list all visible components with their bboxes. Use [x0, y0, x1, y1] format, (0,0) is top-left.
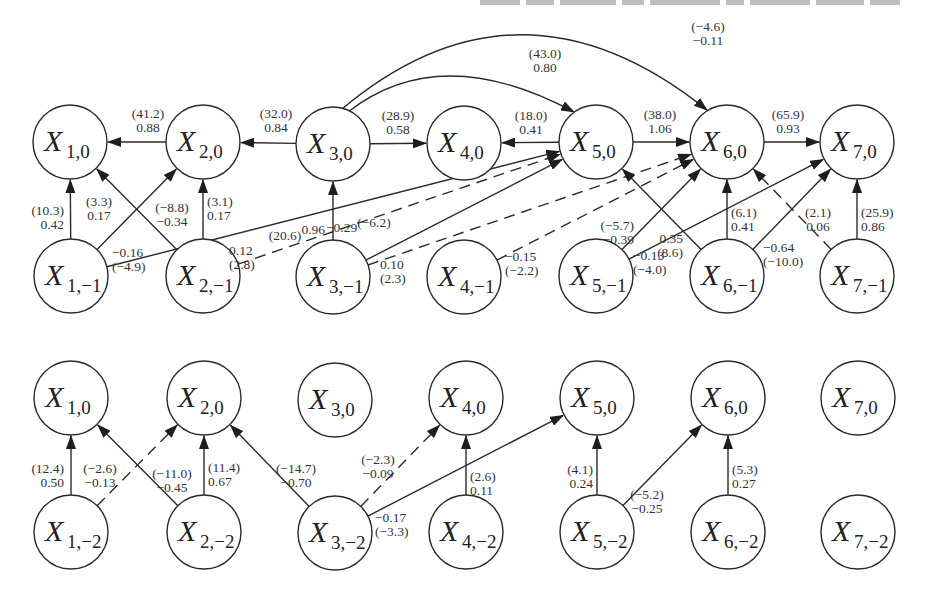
- node-label-main: X: [830, 258, 851, 291]
- node-label-main: X: [439, 380, 460, 413]
- edge-label: (43.0)0.80: [529, 46, 562, 75]
- edge-label: −0.17(−3.3): [375, 510, 408, 539]
- node-label-subscript: 2,−1: [199, 275, 233, 296]
- edge-label: −0.16(−4.9): [112, 245, 145, 274]
- edge-label-line: −0.25: [631, 501, 662, 516]
- edge-label: (32.0)0.84: [260, 106, 293, 135]
- node-X4_0: X4,0: [427, 106, 501, 180]
- edge-label: (2.1)0.06: [805, 205, 831, 234]
- panel-lag-1: X1,0X2,0X3,0X4,0X5,0X6,0X7,0X1,−1X2,−1X3…: [31, 19, 894, 314]
- edge-label-line: −0.34: [156, 214, 187, 229]
- edge-label-line: −0.15: [505, 249, 536, 264]
- edge-label-line: −0.39: [603, 232, 634, 247]
- node-label-main: X: [830, 124, 851, 157]
- edge-label: (11.4)0.67: [208, 460, 240, 489]
- edge-label-line: (43.0): [529, 46, 562, 61]
- node-label-main: X: [308, 382, 329, 415]
- edge-label: (−14.7)−0.70: [276, 461, 316, 490]
- node-label-main: X: [569, 124, 590, 157]
- edge-label-line: (−3.3): [375, 524, 408, 539]
- edge-label-line: −0.70: [280, 475, 311, 490]
- node-label-main: X: [308, 515, 329, 548]
- edge-label-line: 0.41: [731, 219, 755, 234]
- node-X4_m1: X4,−1: [427, 240, 501, 314]
- edge-label-line: (10.3): [31, 203, 64, 218]
- node-label-main: X: [437, 259, 458, 292]
- edge-label-line: (−4.6): [691, 19, 724, 34]
- node-X5_0: X5,0: [559, 105, 633, 179]
- node-B_X7_0: X7,0: [821, 361, 895, 435]
- edge-label-line: (2.1): [805, 205, 831, 220]
- edge-label: 0.12(2.8): [229, 243, 255, 272]
- node-B_X6_0: X6,0: [691, 361, 765, 435]
- edge-label-line: 0.93: [776, 121, 800, 136]
- edge-label-line: 0.11: [470, 483, 493, 498]
- node-label-subscript: 5,0: [593, 397, 617, 418]
- edge-label-line: (25.9): [861, 205, 894, 220]
- node-label-main: X: [177, 514, 198, 547]
- node-label-subscript: 1,0: [66, 141, 90, 162]
- edge-label: (10.3)0.42: [31, 203, 64, 232]
- edge-label-line: (−14.7): [276, 461, 316, 476]
- edge-label-line: (−2.3): [361, 452, 394, 467]
- node-label-main: X: [306, 259, 327, 292]
- edge-label: (2.6)0.11: [470, 469, 496, 498]
- edge-label: (28.9)0.58: [382, 108, 415, 137]
- edge-label-line: (2.3): [380, 271, 406, 286]
- node-label-main: X: [177, 380, 198, 413]
- node-X7_0: X7,0: [820, 105, 894, 179]
- node-label-subscript: 7,−1: [853, 275, 887, 296]
- edge-label-line: (−2.2): [505, 263, 538, 278]
- edge-label-line: (−8.8): [155, 200, 188, 215]
- edge-label-line: (38.0): [644, 107, 677, 122]
- edge-label: (18.0)0.41: [515, 108, 548, 137]
- edge-label-line: 0.12: [229, 243, 253, 258]
- node-label-main: X: [701, 514, 722, 547]
- edge-label: (3.3)0.17: [86, 194, 112, 223]
- edge-label: (65.9)0.93: [772, 107, 805, 136]
- node-label-subscript: 6,0: [724, 397, 748, 418]
- node-label-subscript: 4,−1: [460, 276, 494, 297]
- edge-label-line: (2.6): [470, 469, 496, 484]
- node-label-subscript: 4,0: [462, 397, 486, 418]
- edge-label-line: 1.06: [648, 121, 672, 136]
- node-label-subscript: 6,−1: [723, 275, 757, 296]
- edge-label-line: (−4.9): [112, 259, 145, 274]
- edge-label-line: (−2.6): [83, 461, 116, 476]
- node-label-subscript: 2,−2: [200, 531, 234, 552]
- edge-label-line: (8.6): [657, 245, 683, 260]
- node-label-main: X: [570, 380, 591, 413]
- edge-label: (−2.3)−0.09: [361, 452, 394, 481]
- edge-label-line: −0.09: [362, 466, 393, 481]
- node-label-subscript: 5,0: [592, 141, 616, 162]
- edge-label: (3.1)0.17: [207, 194, 233, 223]
- node-label-subscript: 4,0: [460, 142, 484, 163]
- edge-label-line: (32.0): [260, 106, 293, 121]
- edge-label: −0.64(−10.0): [763, 240, 803, 269]
- node-label-main: X: [43, 124, 64, 157]
- node-label-subscript: 3,0: [329, 143, 353, 164]
- node-label-subscript: 2,0: [199, 141, 223, 162]
- edge-label-line: (−4.0): [633, 262, 666, 277]
- node-B_X7_m2: X7,−2: [821, 495, 895, 569]
- edge-label-line: −0.16: [112, 245, 143, 260]
- edge-label-line: (3.1): [207, 194, 233, 209]
- node-label-subscript: 3,−1: [329, 276, 363, 297]
- edge-label: (25.9)0.86: [861, 205, 894, 234]
- node-B_X4_m2: X4,−2: [429, 495, 503, 569]
- edge-label-line: 0.24: [569, 476, 593, 491]
- edge-label-line: (2.8): [229, 257, 255, 272]
- edge-label-line: (41.2): [132, 106, 165, 121]
- edge-label-line: (4.1): [567, 462, 593, 477]
- node-label-main: X: [439, 514, 460, 547]
- edge-label: (4.1)0.24: [567, 462, 593, 491]
- node-B_X6_m2: X6,−2: [691, 495, 765, 569]
- edge-label-line: (11.4): [208, 460, 240, 475]
- edge-label-line: 0.27: [732, 476, 756, 491]
- node-label-main: X: [44, 380, 65, 413]
- edge-label-line: −0.17: [375, 510, 406, 525]
- edge-label: 0.35(8.6): [657, 231, 683, 260]
- edge-X3_0-to-X2_0-arrow: [241, 143, 296, 144]
- node-B_X3_m2: X3,−2: [298, 496, 372, 570]
- node-label-main: X: [831, 380, 852, 413]
